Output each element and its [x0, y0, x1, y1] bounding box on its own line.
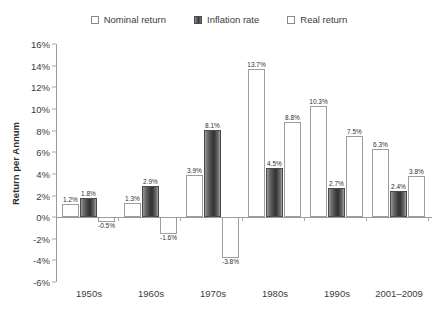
bar-inflation-1990s[interactable]: 2.7%	[328, 188, 345, 217]
x-axis-label-1980s: 1980s	[246, 288, 304, 299]
bar-nominal-1990s[interactable]: 10.3%	[310, 106, 327, 217]
bar-group-2001-2009: 6.3% 2.4% 3.8% 2001–2009	[370, 44, 428, 282]
bar-real-1990s[interactable]: 7.5%	[346, 136, 363, 217]
bar-nominal-1980s[interactable]: 13.7%	[248, 69, 265, 217]
bar-real-1950s[interactable]: -0.5%	[98, 217, 115, 222]
bar-value-label-inflation-1980s: 4.5%	[267, 161, 282, 168]
bar-nominal-1960s[interactable]: 1.3%	[124, 203, 141, 217]
bar-value-label-inflation-1950s: 1.8%	[81, 191, 96, 198]
y-tick-mark-neg2	[52, 238, 56, 239]
bar-value-label-nominal-1970s: 3.9%	[187, 168, 202, 175]
legend-swatch-icon-nominal-return	[91, 16, 99, 24]
bar-group-1970s: 3.9% 8.1% -3.8% 1970s	[184, 44, 242, 282]
plot-area: 16% 14% 12% 10% 8% 6% 4% 2% 0% -2% -4% -…	[56, 44, 432, 282]
bar-real-1970s[interactable]: -3.8%	[222, 217, 239, 258]
bar-real-2001-2009[interactable]: 3.8%	[408, 176, 425, 217]
legend-item-nominal-return: Nominal return	[91, 14, 166, 25]
bar-nominal-1970s[interactable]: 3.9%	[186, 175, 203, 217]
x-tick-mark-5	[366, 217, 367, 221]
bar-value-label-nominal-1980s: 13.7%	[247, 62, 265, 69]
bar-inflation-2001-2009[interactable]: 2.4%	[390, 191, 407, 217]
bar-value-label-real-1950s: -0.5%	[98, 223, 115, 230]
x-tick-mark-3	[242, 217, 243, 221]
x-axis-label-1990s: 1990s	[308, 288, 366, 299]
legend-item-inflation-rate: Inflation rate	[194, 14, 259, 25]
bar-value-label-real-1980s: 8.8%	[285, 115, 300, 122]
y-tick-mark-16	[52, 44, 56, 45]
x-axis-label-1970s: 1970s	[184, 288, 242, 299]
bar-value-label-nominal-1960s: 1.3%	[125, 196, 140, 203]
bar-value-label-inflation-2001-2009: 2.4%	[391, 184, 406, 191]
y-axis-line	[56, 44, 57, 282]
bar-group-1980s: 13.7% 4.5% 8.8% 1980s	[246, 44, 304, 282]
bar-value-label-real-2001-2009: 3.8%	[409, 169, 424, 176]
bar-group-1960s: 1.3% 2.9% -1.6% 1960s	[122, 44, 180, 282]
bar-real-1960s[interactable]: -1.6%	[160, 217, 177, 234]
y-tick-mark-neg6	[52, 282, 56, 283]
bar-group-1950s: 1.2% 1.8% -0.5% 1950s	[60, 44, 118, 282]
y-axis-title: Return per Annum	[8, 44, 22, 282]
bar-inflation-1980s[interactable]: 4.5%	[266, 168, 283, 217]
bar-inflation-1950s[interactable]: 1.8%	[80, 198, 97, 218]
bar-value-label-inflation-1990s: 2.7%	[329, 181, 344, 188]
bar-value-label-nominal-2001-2009: 6.3%	[373, 142, 388, 149]
bar-real-1980s[interactable]: 8.8%	[284, 122, 301, 217]
x-tick-mark-4	[304, 217, 305, 221]
bar-value-label-real-1990s: 7.5%	[347, 129, 362, 136]
y-tick-mark-10	[52, 108, 56, 109]
y-tick-mark-4	[52, 173, 56, 174]
legend-swatch-icon-inflation-rate	[194, 16, 202, 24]
legend-label-nominal-return: Nominal return	[104, 14, 166, 25]
legend-label-inflation-rate: Inflation rate	[207, 14, 259, 25]
bar-value-label-real-1970s: -3.8%	[222, 259, 239, 266]
bar-value-label-nominal-1950s: 1.2%	[63, 197, 78, 204]
y-tick-mark-12	[52, 87, 56, 88]
x-tick-mark-2	[180, 217, 181, 221]
y-tick-mark-8	[52, 130, 56, 131]
bar-value-label-inflation-1970s: 8.1%	[205, 123, 220, 130]
bar-inflation-1960s[interactable]: 2.9%	[142, 186, 159, 217]
legend-item-real-return: Real return	[287, 14, 347, 25]
bar-value-label-inflation-1960s: 2.9%	[143, 179, 158, 186]
x-axis-label-1950s: 1950s	[60, 288, 118, 299]
y-tick-mark-neg4	[52, 260, 56, 261]
chart-legend: Nominal return Inflation rate Real retur…	[0, 14, 438, 25]
y-tick-mark-14	[52, 65, 56, 66]
bar-inflation-1970s[interactable]: 8.1%	[204, 130, 221, 218]
bar-nominal-2001-2009[interactable]: 6.3%	[372, 149, 389, 217]
bar-nominal-1950s[interactable]: 1.2%	[62, 204, 79, 217]
x-tick-mark-1	[118, 217, 119, 221]
bar-group-1990s: 10.3% 2.7% 7.5% 1990s	[308, 44, 366, 282]
x-tick-mark-6	[428, 217, 429, 221]
x-axis-label-1960s: 1960s	[122, 288, 180, 299]
bar-value-label-real-1960s: -1.6%	[160, 235, 177, 242]
legend-swatch-icon-real-return	[287, 16, 295, 24]
bar-value-label-nominal-1990s: 10.3%	[309, 99, 327, 106]
x-axis-label-2001-2009: 2001–2009	[370, 288, 428, 299]
legend-label-real-return: Real return	[300, 14, 347, 25]
y-tick-mark-2	[52, 195, 56, 196]
y-tick-mark-6	[52, 152, 56, 153]
